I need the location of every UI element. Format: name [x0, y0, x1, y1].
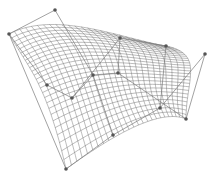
control-edge	[72, 38, 120, 98]
control-edge	[118, 73, 186, 119]
mesh-line	[68, 25, 119, 134]
surface-mesh	[9, 25, 191, 170]
control-edge	[113, 108, 160, 135]
surface-diagram	[0, 0, 215, 181]
control-point	[111, 133, 115, 137]
mesh-line	[66, 117, 186, 170]
control-point	[91, 73, 95, 77]
control-point	[7, 32, 11, 36]
mesh-line	[45, 77, 191, 98]
mesh-line	[40, 70, 190, 88]
control-point	[184, 117, 188, 121]
control-point	[118, 36, 122, 40]
control-point	[45, 83, 49, 87]
control-point	[164, 44, 168, 48]
control-point	[64, 167, 68, 171]
control-point	[158, 106, 162, 110]
control-point	[116, 71, 120, 75]
control-point	[203, 52, 207, 56]
mesh-line	[43, 73, 191, 92]
control-point	[53, 8, 57, 12]
control-edge	[66, 135, 113, 169]
control-polygon	[9, 10, 205, 169]
control-points	[7, 8, 207, 171]
control-point	[70, 96, 74, 100]
mesh-line	[36, 63, 190, 80]
control-edge	[9, 34, 47, 85]
